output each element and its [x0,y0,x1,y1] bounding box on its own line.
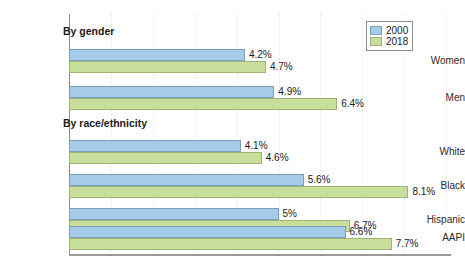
bar-value-black-2018: 8.1% [412,186,435,198]
bar-value-aapi-2000: 6.6% [350,226,373,238]
bar-value-aapi-2018: 7.7% [396,238,419,250]
bar-value-women-2000: 4.2% [249,49,272,61]
category-label-hispanic: Hispanic [401,214,465,225]
section-header-by-race-ethnicity: By race/ethnicity [63,117,147,129]
bar-hispanic-2000[interactable] [69,208,279,220]
bar-value-men-2018: 6.4% [341,98,364,110]
bar-women-2018[interactable] [69,61,266,73]
bar-value-white-2018: 4.6% [266,152,289,164]
bar-value-women-2018: 4.7% [270,61,293,73]
gridline [362,14,363,255]
legend: 2000 2018 [366,21,413,51]
bar-men-2018[interactable] [69,98,337,110]
bar-value-men-2000: 4.9% [278,86,301,98]
bar-black-2000[interactable] [69,174,304,186]
legend-swatch-2018-icon [370,37,382,46]
legend-label-2018: 2018 [386,36,408,47]
bar-aapi-2000[interactable] [69,226,346,238]
bar-value-white-2000: 4.1% [245,140,268,152]
gridline [320,14,321,255]
legend-item-2000[interactable]: 2000 [370,25,408,36]
bar-men-2000[interactable] [69,86,274,98]
x-axis-line [69,254,451,256]
grouped-bar-chart: By gender By race/ethnicity 2000 2018 Wo… [0,0,465,270]
bar-value-hispanic-2000: 5% [283,208,297,220]
category-label-women: Women [401,55,465,66]
section-header-by-gender: By gender [63,25,114,37]
legend-item-2018[interactable]: 2018 [370,36,408,47]
bar-white-2018[interactable] [69,152,262,164]
legend-label-2000: 2000 [386,25,408,36]
category-label-white: White [401,146,465,157]
bar-women-2000[interactable] [69,49,245,61]
legend-swatch-2000-icon [370,26,382,35]
gridline [279,14,280,255]
bar-aapi-2018[interactable] [69,238,392,250]
bar-black-2018[interactable] [69,186,408,198]
category-label-men: Men [401,92,465,103]
bar-value-black-2000: 5.6% [308,174,331,186]
bar-white-2000[interactable] [69,140,241,152]
